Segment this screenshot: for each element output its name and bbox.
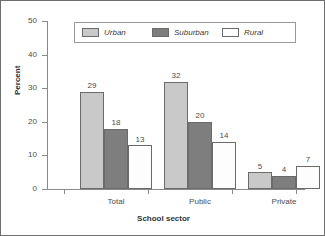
x-tick-start [64,190,65,194]
y-axis-title: Percent [13,66,22,95]
x-tick-label-private: Private [254,197,314,206]
y-tick-label-20: 20 [13,118,37,126]
bar-value-total-rural: 13 [128,135,152,144]
bar-private-suburban [272,176,296,189]
y-tick-label-40: 40 [13,51,37,59]
bar-value-private-suburban: 4 [272,165,296,174]
bar-value-private-rural: 7 [296,155,320,164]
bar-total-suburban [104,129,128,190]
bar-value-public-rural: 14 [212,131,236,140]
x-tick-end [296,190,297,194]
bar-total-urban [80,92,104,189]
x-axis-line [47,189,305,190]
y-tick-label-10: 10 [13,151,37,159]
x-axis-title: School sector [1,214,325,223]
bar-total-rural [128,145,152,189]
x-tick-label-public: Public [170,197,230,206]
bar-public-urban [164,82,188,190]
y-tick-label-50: 50 [13,17,37,25]
bar-value-public-urban: 32 [164,71,188,80]
y-tick-label-0: 0 [13,185,37,193]
bar-chart-figure: Urban Suburban Rural 50 40 30 20 10 0 Pe… [0,0,325,236]
bar-value-public-suburban: 20 [188,111,212,120]
bar-value-total-suburban: 18 [104,118,128,127]
x-tick-label-total: Total [86,197,146,206]
bar-public-suburban [188,122,212,189]
bar-private-urban [248,172,272,189]
y-tick-0 [42,189,48,190]
bar-public-rural [212,142,236,189]
bar-value-private-urban: 5 [248,162,272,171]
plot-area: 29 18 13 32 20 14 5 4 7 [48,21,304,189]
bar-private-rural [296,166,320,190]
x-tick-total-public [148,190,149,194]
x-tick-public-private [232,190,233,194]
bar-value-total-urban: 29 [80,81,104,90]
